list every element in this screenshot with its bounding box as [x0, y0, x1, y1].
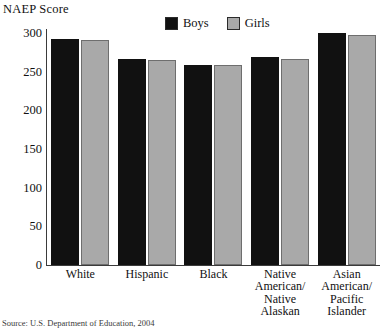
- chart-legend: Boys Girls: [165, 17, 270, 30]
- bar-group: [313, 33, 380, 265]
- legend-item-boys[interactable]: Boys: [165, 17, 209, 30]
- source-note: Source: U.S. Department of Education, 20…: [2, 318, 155, 328]
- x-category-label: Black: [180, 268, 247, 318]
- bar-girls[interactable]: [148, 60, 176, 265]
- bar-boys[interactable]: [184, 65, 212, 265]
- bar-group: [47, 33, 114, 265]
- legend-swatch-girls-icon: [227, 17, 240, 30]
- bar-girls[interactable]: [348, 35, 376, 265]
- bar-group: [247, 33, 314, 265]
- y-tick-300: 300: [23, 26, 42, 41]
- y-tick-100: 100: [23, 180, 42, 195]
- bar-boys[interactable]: [118, 59, 146, 265]
- legend-label-boys: Boys: [183, 17, 209, 30]
- y-tick-250: 250: [23, 64, 42, 79]
- x-category-label: NativeAmerican/NativeAlaskan: [247, 268, 314, 318]
- bar-group: [114, 33, 181, 265]
- y-tick-0: 0: [36, 258, 42, 273]
- x-category-label: Hispanic: [114, 268, 181, 318]
- x-axis-category-labels: WhiteHispanicBlackNativeAmerican/NativeA…: [47, 268, 380, 318]
- bar-boys[interactable]: [51, 39, 79, 265]
- plot-area: 300250200150100500: [47, 33, 380, 265]
- bar-girls[interactable]: [81, 40, 109, 265]
- legend-swatch-boys-icon: [165, 17, 178, 30]
- bar-group: [180, 33, 247, 265]
- legend-label-girls: Girls: [245, 17, 270, 30]
- x-category-label: AsianAmerican/PacificIslander: [313, 268, 380, 318]
- bar-boys[interactable]: [318, 33, 346, 265]
- x-category-label: White: [47, 268, 114, 318]
- y-tick-200: 200: [23, 103, 42, 118]
- bar-girls[interactable]: [281, 59, 309, 265]
- bar-boys[interactable]: [251, 57, 279, 265]
- bar-groups: [47, 33, 380, 265]
- y-axis-title: NAEP Score: [3, 2, 69, 17]
- bar-girls[interactable]: [214, 65, 242, 265]
- y-tick-150: 150: [23, 142, 42, 157]
- y-tick-50: 50: [30, 219, 43, 234]
- legend-item-girls[interactable]: Girls: [227, 17, 270, 30]
